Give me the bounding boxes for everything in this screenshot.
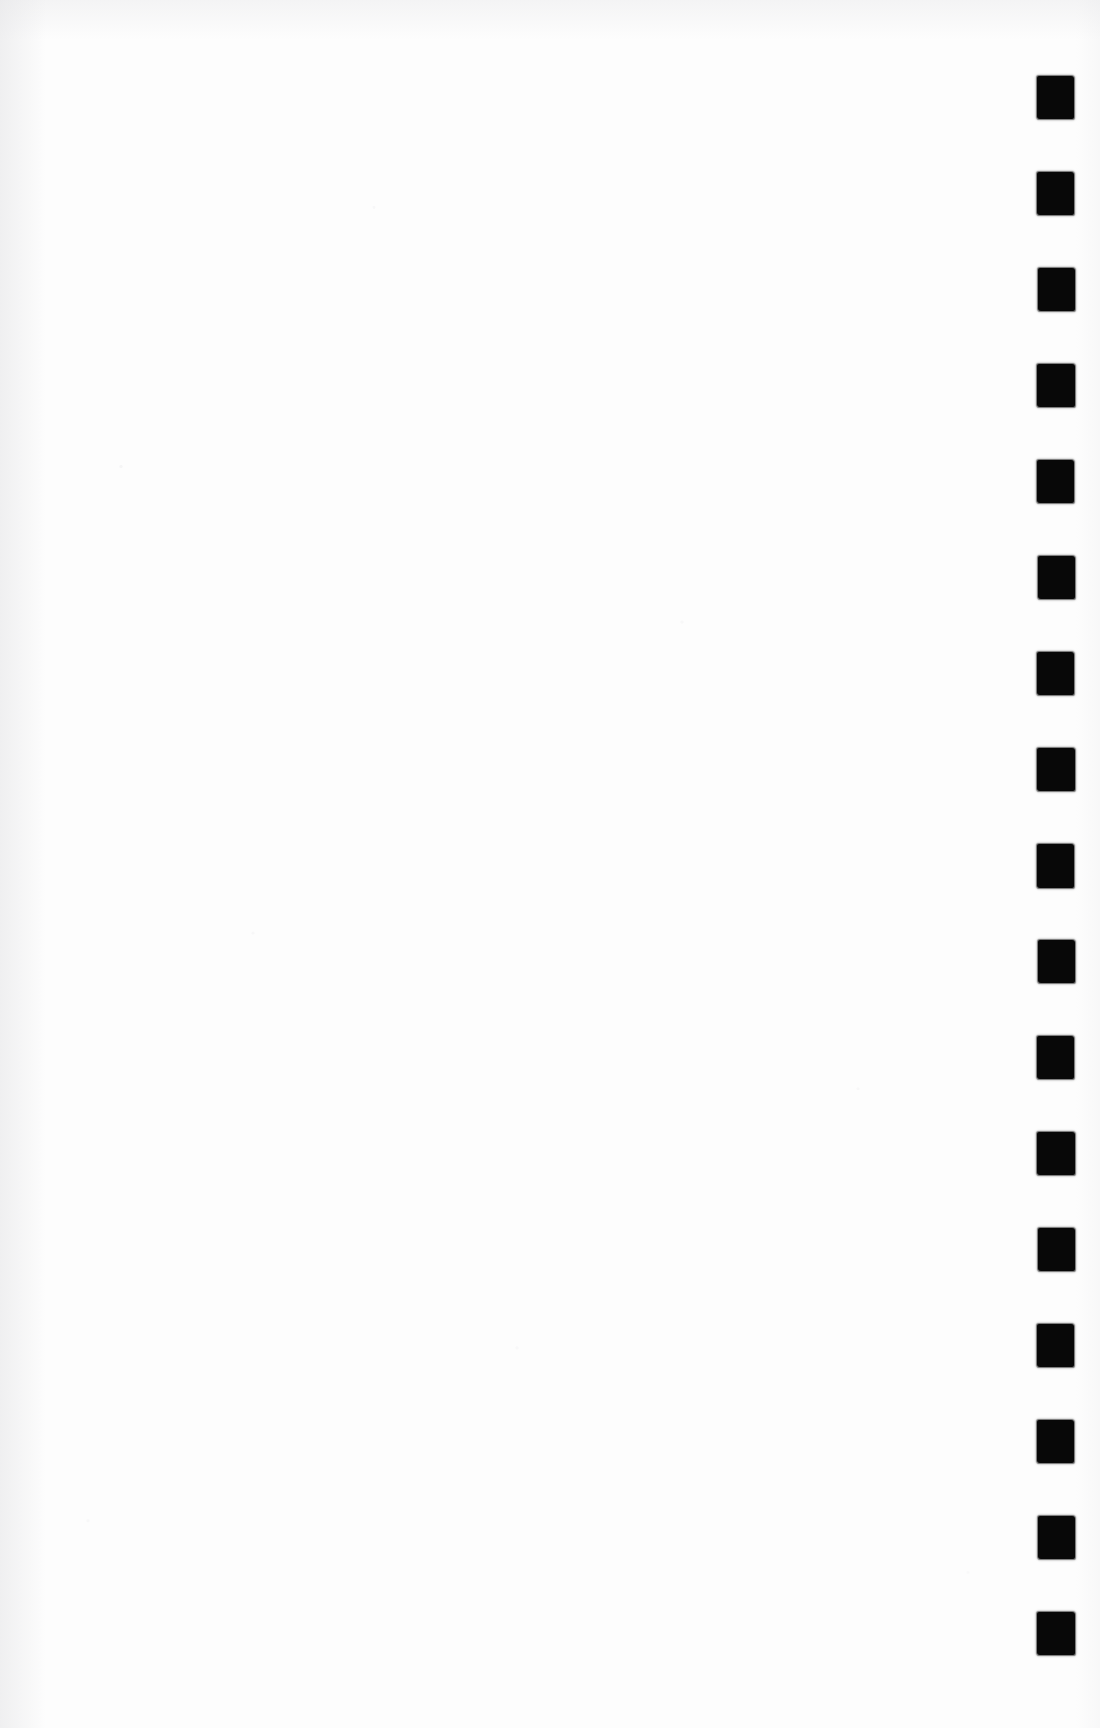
- index-mark-6: [1038, 556, 1075, 599]
- index-mark-10: [1038, 940, 1075, 983]
- index-mark-column: [0, 0, 1100, 1728]
- index-mark-9: [1037, 844, 1074, 888]
- index-mark-17: [1037, 1612, 1075, 1655]
- index-mark-4: [1037, 364, 1075, 407]
- index-mark-13: [1038, 1228, 1075, 1271]
- index-mark-8: [1037, 748, 1075, 791]
- index-mark-14: [1037, 1324, 1074, 1367]
- index-mark-7: [1037, 652, 1074, 695]
- index-mark-3: [1038, 268, 1075, 311]
- index-mark-12: [1037, 1132, 1075, 1175]
- index-mark-16: [1038, 1516, 1075, 1559]
- scanned-page: [0, 0, 1100, 1728]
- index-mark-15: [1037, 1420, 1074, 1463]
- index-mark-2: [1037, 172, 1074, 215]
- index-mark-5: [1037, 460, 1074, 503]
- index-mark-11: [1037, 1036, 1074, 1079]
- index-mark-1: [1037, 76, 1074, 119]
